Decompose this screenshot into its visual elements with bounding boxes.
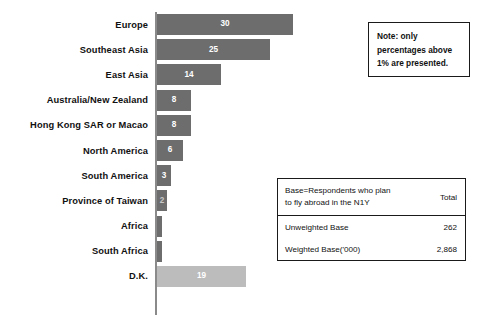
bar-container: 8 — [157, 90, 191, 111]
bar-value-label: 2 — [160, 197, 165, 205]
bar-container: 30 — [157, 14, 293, 35]
bar-container: 14 — [157, 64, 221, 85]
bar-value-label: 8 — [172, 121, 177, 129]
bar-row-south-america: South America 3 — [0, 163, 300, 188]
bar-chart: Europe 30 Southeast Asia 25 East Asia 14 — [0, 0, 300, 327]
base-table-row-value: 2,868 — [405, 245, 465, 254]
category-label: Australia/New Zealand — [0, 95, 148, 105]
bar-rows: Europe 30 Southeast Asia 25 East Asia 14 — [0, 12, 300, 289]
bar-value-label: 19 — [197, 272, 206, 280]
bar — [157, 241, 162, 262]
bar-row-europe: Europe 30 — [0, 12, 300, 37]
bar-container: 19 — [157, 266, 246, 287]
category-label: Africa — [0, 221, 148, 231]
bar-row-province-of-taiwan: Province of Taiwan 2 — [0, 188, 300, 213]
note-line: percentages above — [377, 44, 461, 58]
bar-row-north-america: North America 6 — [0, 138, 300, 163]
category-label: D.K. — [0, 271, 148, 281]
bar-row-southeast-asia: Southeast Asia 25 — [0, 37, 300, 62]
bar-row-australia-new-zealand: Australia/New Zealand 8 — [0, 88, 300, 113]
category-label: Hong Kong SAR or Macao — [0, 120, 148, 130]
category-label: North America — [0, 146, 148, 156]
category-label: Southeast Asia — [0, 45, 148, 55]
base-table-row: Unweighted Base 262 — [278, 216, 465, 238]
bar-value-label: 30 — [220, 20, 229, 28]
bar-row-east-asia: East Asia 14 — [0, 62, 300, 87]
bar-row-dk: D.K. 19 — [0, 264, 300, 289]
bar-row-hong-kong-sar-or-macao: Hong Kong SAR or Macao 8 — [0, 113, 300, 138]
base-table-row-value: 262 — [405, 223, 465, 232]
bar-value-label: 14 — [184, 71, 193, 79]
bar-container: 2 — [157, 190, 167, 211]
bar-container — [157, 241, 162, 262]
bar: 30 — [157, 14, 293, 35]
bar: 8 — [157, 115, 191, 136]
bar: 25 — [157, 39, 270, 60]
bar-container: 25 — [157, 39, 270, 60]
base-table-row-label: Weighted Base('000) — [278, 245, 405, 254]
bar: 8 — [157, 90, 191, 111]
bar: 6 — [157, 140, 183, 161]
category-label: South Africa — [0, 246, 148, 256]
bar-container: 6 — [157, 140, 183, 161]
bar-row-africa: Africa — [0, 214, 300, 239]
bar-value-label: 3 — [162, 172, 167, 180]
category-label: Europe — [0, 20, 148, 30]
bar-value-label: 25 — [209, 46, 218, 54]
bar-value-label: 8 — [172, 96, 177, 104]
bar-row-south-africa: South Africa — [0, 239, 300, 264]
category-label: South America — [0, 171, 148, 181]
bar: 2 — [157, 190, 167, 211]
base-table-row: Weighted Base('000) 2,868 — [278, 238, 465, 260]
category-label: Province of Taiwan — [0, 196, 148, 206]
note-line: 1% are presented. — [377, 57, 461, 71]
base-table-header-total: Total — [405, 193, 465, 202]
bar — [157, 216, 162, 237]
category-label: East Asia — [0, 70, 148, 80]
base-table: Base=Respondents who plan to fly abroad … — [277, 178, 466, 261]
bar-container — [157, 216, 162, 237]
base-table-header-label: Base=Respondents who plan to fly abroad … — [278, 185, 405, 210]
note-box: Note: only percentages above 1% are pres… — [368, 22, 470, 77]
note-line: Note: only — [377, 30, 461, 44]
base-table-header-label-line2: to fly abroad in the N1Y — [285, 197, 405, 210]
bar: 19 — [157, 266, 246, 287]
bar-value-label: 6 — [168, 146, 173, 154]
base-table-row-label: Unweighted Base — [278, 223, 405, 232]
base-table-header-label-line1: Base=Respondents who plan — [285, 185, 405, 198]
bar-container: 3 — [157, 165, 171, 186]
bar-container: 8 — [157, 115, 191, 136]
bar: 14 — [157, 64, 221, 85]
bar: 3 — [157, 165, 171, 186]
base-table-header-row: Base=Respondents who plan to fly abroad … — [278, 179, 465, 216]
